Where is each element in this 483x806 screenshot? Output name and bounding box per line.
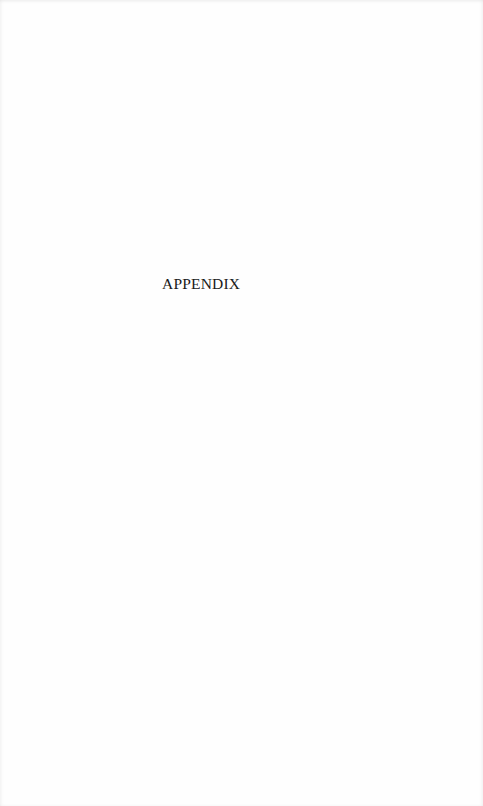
- appendix-heading: APPENDIX: [162, 275, 240, 293]
- book-page: APPENDIX: [0, 0, 483, 806]
